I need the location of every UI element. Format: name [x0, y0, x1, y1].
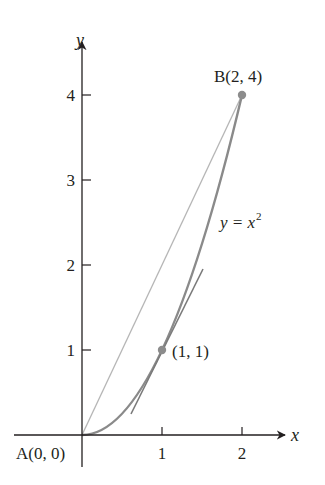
- point-p-label: (1, 1): [172, 342, 209, 361]
- equation-exponent: 2: [256, 210, 262, 222]
- point-a-label: A(0, 0): [16, 444, 65, 463]
- point-b: [238, 91, 246, 99]
- y-tick-label-2: 2: [67, 256, 76, 275]
- parabola-diagram: 1 2 1 2 3 4 x y B(2, 4) (1, 1) A(0, 0) y…: [0, 0, 325, 485]
- equation-main: y = x: [218, 213, 256, 232]
- y-tick-label-3: 3: [67, 171, 76, 190]
- x-axis-label: x: [290, 425, 299, 445]
- x-tick-label-2: 2: [238, 444, 247, 463]
- y-axis-label: y: [74, 30, 84, 50]
- secant-line-ab: [82, 95, 242, 435]
- point-p: [158, 346, 166, 354]
- y-tick-label-1: 1: [67, 341, 76, 360]
- x-tick-label-1: 1: [158, 444, 167, 463]
- curve-equation-label: y = x2: [218, 210, 262, 232]
- point-b-label: B(2, 4): [214, 67, 262, 86]
- y-tick-label-4: 4: [67, 86, 76, 105]
